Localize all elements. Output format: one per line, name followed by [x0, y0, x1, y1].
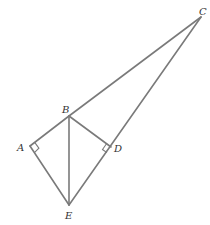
geometry-diagram: A B C D E: [0, 0, 210, 225]
segment-bd: [69, 116, 111, 147]
right-angle-marker-a: [34, 142, 39, 152]
segments: [30, 17, 201, 205]
segment-ae: [30, 146, 69, 205]
segment-bc: [69, 17, 201, 116]
segment-ab: [30, 116, 69, 146]
right-angle-markers: [34, 142, 107, 152]
segment-ec: [69, 17, 201, 205]
point-labels: A B C D E: [16, 6, 207, 221]
label-a: A: [16, 142, 24, 153]
label-e: E: [64, 210, 73, 221]
label-d: D: [113, 143, 122, 154]
label-b: B: [61, 104, 69, 115]
label-c: C: [199, 6, 207, 17]
